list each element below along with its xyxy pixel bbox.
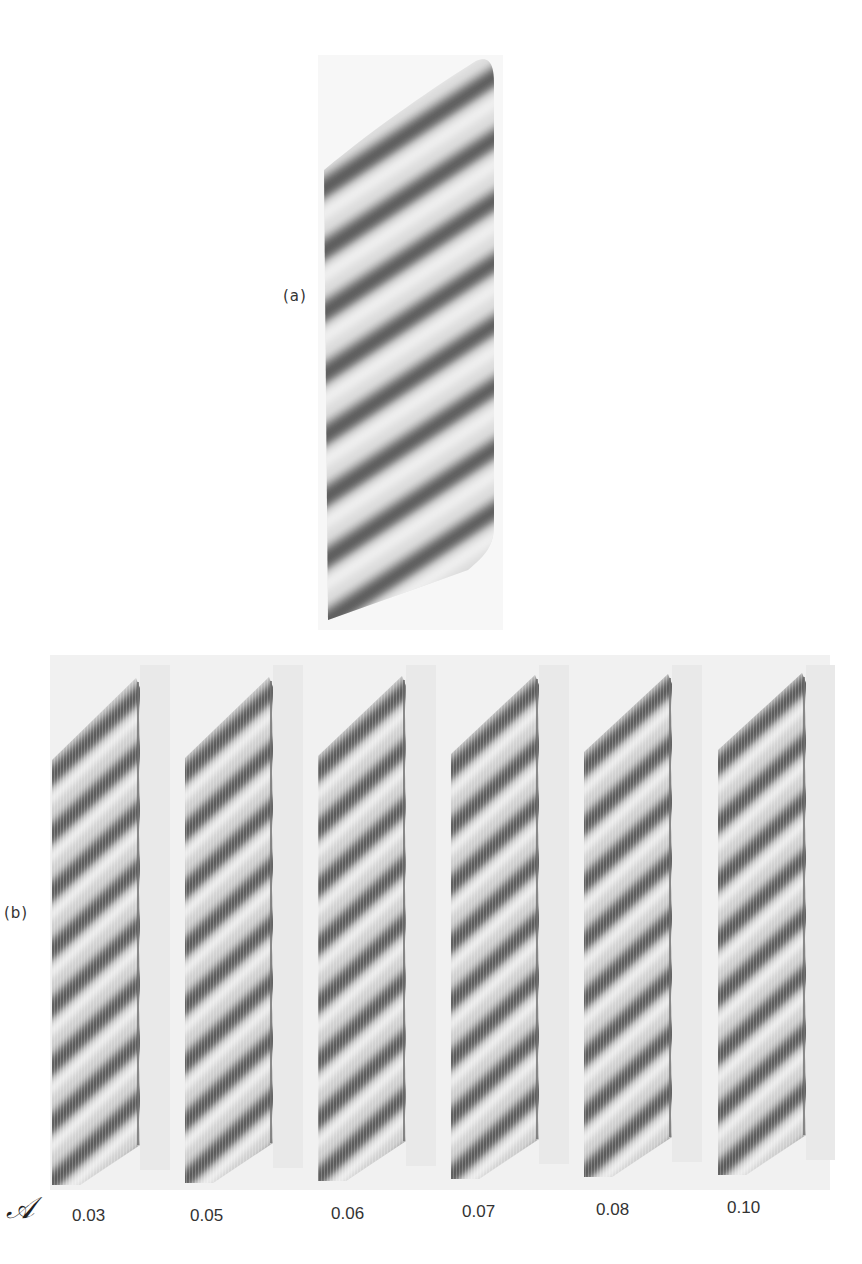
ghost-column	[539, 665, 569, 1164]
param-value-1: 0.03	[72, 1206, 105, 1226]
param-value-3: 0.06	[331, 1204, 364, 1224]
param-value-6: 0.10	[727, 1198, 760, 1218]
panel-a-label: (a)	[283, 287, 307, 305]
param-value-4: 0.07	[462, 1202, 495, 1222]
parameter-symbol: 𝒜	[6, 1190, 34, 1226]
panel-b-label: (b)	[4, 904, 28, 922]
ghost-column	[806, 665, 835, 1160]
ghost-column	[672, 665, 702, 1162]
ghost-column	[140, 665, 170, 1170]
ghost-column	[406, 665, 436, 1166]
panel-a-pattern	[318, 55, 503, 630]
ghost-column	[273, 665, 303, 1168]
param-value-2: 0.05	[190, 1206, 223, 1226]
panel-b-patterns	[45, 650, 835, 1195]
param-value-5: 0.08	[596, 1200, 629, 1220]
